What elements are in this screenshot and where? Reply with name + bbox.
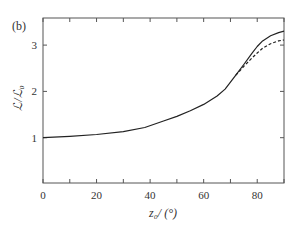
panel-label: (b) <box>12 19 26 33</box>
dashed-curve <box>236 40 284 75</box>
y-axis-label: ℒ/ℒ₀ <box>11 85 25 111</box>
series <box>43 31 284 138</box>
y-ticks: 123 <box>32 39 285 144</box>
y-tick-label: 1 <box>32 132 38 144</box>
x-tick-label: 80 <box>252 189 264 201</box>
x-tick-label: 40 <box>145 189 157 201</box>
solid-curve <box>43 31 284 138</box>
x-ticks: 020406080 <box>40 18 284 201</box>
y-tick-label: 2 <box>32 85 38 97</box>
x-tick-label: 20 <box>91 189 103 201</box>
y-tick-label: 3 <box>32 39 38 51</box>
x-tick-label: 0 <box>40 189 46 201</box>
x-axis-label: z₀/ (°) <box>148 206 177 220</box>
x-tick-label: 60 <box>198 189 210 201</box>
plot-frame <box>43 18 284 183</box>
chart: (b) 020406080 123 z₀/ (°) ℒ/ℒ₀ <box>0 0 296 227</box>
